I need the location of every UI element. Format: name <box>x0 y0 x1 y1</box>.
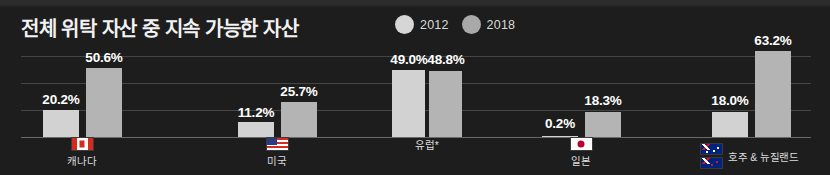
bar-label-2012-japan: 0.2% <box>527 116 593 131</box>
bar-label-2018-europe: 48.8% <box>413 52 479 67</box>
bar-label-2018-canada: 50.6% <box>71 50 137 65</box>
australia-new-zealand-flag-icon <box>700 143 723 169</box>
new-zealand-flag-icon <box>700 157 723 169</box>
bar-label-2012-canada: 20.2% <box>28 92 94 107</box>
bar-label-2018-usa: 25.7% <box>266 84 332 99</box>
category-label-japan: 일본 <box>571 153 591 168</box>
plot-area: 20.2% 50.6% 캐나다 11.2% 25.7% 미국 49.0% 48.… <box>0 0 830 175</box>
australia-flag-icon <box>700 143 723 155</box>
usa-flag-icon <box>266 137 289 151</box>
category-japan: 일본 <box>541 134 621 175</box>
bar-2018-usa[interactable] <box>281 102 317 137</box>
category-label-usa: 미국 <box>267 153 287 168</box>
bar-2012-canada[interactable] <box>43 110 79 138</box>
bar-label-2018-japan: 18.3% <box>570 93 636 108</box>
bar-label-2012-australia-new-zealand: 18.0% <box>697 93 763 108</box>
bar-2018-canada[interactable] <box>86 68 122 137</box>
category-europe: 유럽* <box>387 125 467 175</box>
category-label-canada: 캐나다 <box>67 153 96 168</box>
category-label-australia-new-zealand: 호주 & 뉴질랜드 <box>728 149 799 164</box>
japan-flag-icon <box>570 137 593 151</box>
category-canada: 캐나다 <box>42 134 122 175</box>
category-usa: 미국 <box>237 134 317 175</box>
category-label-europe: 유럽* <box>415 137 439 152</box>
category-australia-new-zealand: 호주 & 뉴질랜드 <box>700 129 830 175</box>
bar-2018-australia-new-zealand[interactable] <box>755 51 791 137</box>
sustainable-assets-bar-chart: 전체 위탁 자산 중 지속 가능한 자산 2012 2018 20.2% 50.… <box>0 0 830 175</box>
bar-label-2018-australia-new-zealand: 63.2% <box>740 33 806 48</box>
canada-flag-icon <box>71 137 94 151</box>
bar-label-2012-usa: 11.2% <box>223 105 289 120</box>
